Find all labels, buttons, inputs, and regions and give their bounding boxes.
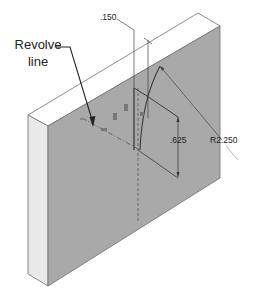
relation-glyph [80,118,84,120]
relation-glyph [124,104,128,111]
dim-radius-leader-ext [226,146,238,160]
relation-glyph [140,112,144,116]
isometric-block-figure: Revolve line .150 .625 R2.250 [0,0,253,288]
dim-150-leader [117,19,134,30]
block-side-face [28,115,48,286]
callout-label-line1: Revolve [8,36,68,53]
dimension-offset-label: .150 [100,12,117,22]
relation-glyph [113,113,117,120]
callout-label: Revolve line [8,36,68,70]
relation-glyph [101,128,107,131]
dimension-radius-label: R2.250 [210,135,237,145]
dimension-height-label: .625 [170,135,187,145]
callout-label-line2: line [8,53,68,70]
